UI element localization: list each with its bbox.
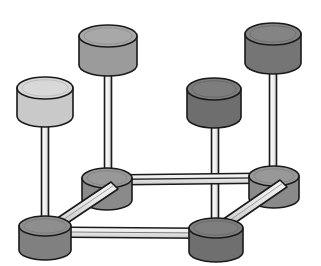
base-node-front-right xyxy=(189,218,243,262)
top-cylinder-left xyxy=(17,77,73,127)
base-node-front-left xyxy=(19,216,71,260)
top-cylinder-back-left xyxy=(79,25,137,76)
top-cylinder-back-right xyxy=(245,23,301,74)
structure-svg xyxy=(0,0,321,266)
top-cylinder-center-right xyxy=(187,78,241,128)
illustration-canvas xyxy=(0,0,321,266)
